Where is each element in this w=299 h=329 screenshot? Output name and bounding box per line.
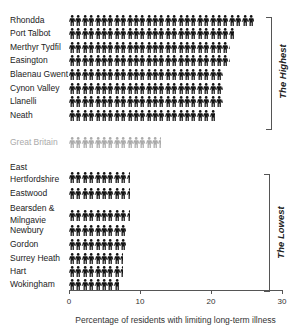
pictogram-bar: [69, 188, 130, 199]
pictogram-bar: [69, 225, 126, 236]
pictogram-bar: [69, 83, 223, 94]
pictogram-bar: [69, 137, 161, 148]
person-icons: [69, 83, 223, 94]
row-label: Llanelli: [10, 95, 36, 107]
person-icons: [69, 188, 130, 199]
pictogram-bar: [69, 96, 223, 107]
x-tick-label-0: 0: [67, 297, 71, 306]
pictogram-bar: [69, 55, 230, 66]
row-label: Blaenau Gwent: [10, 68, 68, 80]
person-icons: [69, 172, 130, 183]
x-tick-label-20: 20: [207, 297, 216, 306]
person-icons: [69, 15, 254, 26]
pictogram-bar: [69, 28, 234, 39]
row-label: Newbury: [10, 224, 44, 236]
row-label: Surrey Heath: [10, 252, 60, 264]
pictogram-bar: [69, 110, 215, 121]
person-icons: [69, 225, 126, 236]
pictogram-bar: [69, 266, 123, 277]
lowest-bracket-label: The Lowest: [275, 203, 286, 263]
row-label: Merthyr Tydfil: [10, 41, 61, 53]
x-tick-label-10: 10: [136, 297, 145, 306]
row-label: Cynon Valley: [10, 82, 59, 94]
row-label: Hart: [10, 265, 26, 277]
person-icons: [69, 110, 215, 121]
pictogram-bar: [69, 15, 254, 26]
person-icons: [69, 42, 230, 53]
pictogram-bar: [69, 42, 230, 53]
person-icons: [69, 137, 161, 148]
person-icons: [69, 69, 223, 80]
x-tick-10: [140, 290, 141, 294]
x-tick-30: [282, 290, 283, 294]
x-axis-line: [69, 290, 282, 291]
row-label: Wokingham: [10, 278, 55, 290]
row-label: Gordon: [10, 238, 38, 250]
row-label: East Hertfordshire: [10, 161, 59, 185]
lowest-bracket: [264, 174, 270, 292]
pictogram-bar: [69, 210, 130, 221]
x-tick-20: [211, 290, 212, 294]
person-icons: [69, 28, 234, 39]
person-icons: [69, 96, 223, 107]
person-icons: [69, 210, 130, 221]
person-icons: [69, 55, 230, 66]
pictogram-bar: [69, 69, 223, 80]
pictogram-bar: [69, 279, 119, 290]
row-label: Bearsden & Milngavie: [10, 202, 54, 226]
highest-bracket-label: The Highest: [277, 42, 288, 102]
row-label: Port Talbot: [10, 27, 50, 39]
row-label: Easington: [10, 54, 48, 66]
row-label: Great Britain: [10, 136, 58, 148]
person-icons: [69, 279, 119, 290]
x-tick-0: [69, 290, 70, 294]
person-icons: [69, 239, 126, 250]
pictogram-bar: [69, 239, 126, 250]
highest-bracket: [266, 17, 272, 130]
row-label: Eastwood: [10, 187, 47, 199]
pictogram-bar: [69, 253, 123, 264]
row-label: Rhondda: [10, 14, 45, 26]
person-icons: [69, 253, 123, 264]
pictogram-bar: [69, 172, 130, 183]
row-label: Neath: [10, 109, 33, 121]
person-icons: [69, 266, 123, 277]
x-tick-label-30: 30: [278, 297, 287, 306]
x-axis-label: Percentage of residents with limiting lo…: [69, 315, 282, 325]
